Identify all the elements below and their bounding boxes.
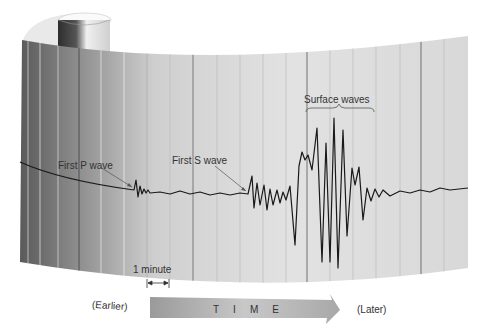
first-s-wave-label: First S wave — [172, 155, 227, 166]
seismogram-diagram: First P wave First S wave Surface waves … — [0, 0, 483, 334]
time-label: TIME — [213, 304, 293, 315]
surface-waves-label: Surface waves — [304, 94, 370, 105]
one-minute-scale-bar — [147, 279, 169, 288]
later-label: (Later) — [357, 304, 386, 315]
first-p-wave-label: First P wave — [58, 160, 113, 171]
one-minute-label: 1 minute — [133, 264, 171, 275]
